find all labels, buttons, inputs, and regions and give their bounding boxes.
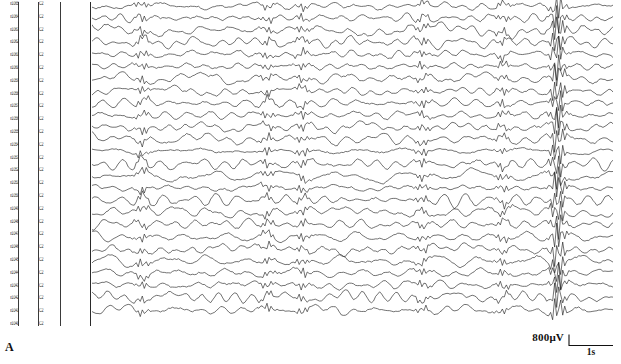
channel-label-right: C2: [39, 181, 63, 186]
eeg-trace-canvas: [92, 0, 613, 326]
channel-label-left: x1045: [10, 257, 36, 262]
channel-label-right: C2: [39, 142, 63, 147]
channel-label-left: x1062: [10, 40, 36, 45]
channel-label-left: x1059: [10, 78, 36, 83]
eeg-trace: [92, 275, 613, 293]
eeg-trace: [92, 82, 613, 101]
channel-label-left: x1053: [10, 155, 36, 160]
channel-label-left: x1064: [10, 14, 36, 19]
channel-label-right: C2: [39, 321, 63, 326]
channel-label-left: x1056: [10, 117, 36, 122]
channel-label-right: C2: [39, 155, 63, 160]
channel-label-right: C2: [39, 53, 63, 58]
channel-label-left: x1065: [10, 2, 36, 7]
eeg-trace: [92, 201, 613, 221]
eeg-trace: [92, 33, 613, 51]
eeg-trace: [92, 299, 613, 320]
eeg-trace: [92, 191, 613, 209]
eeg-trace: [92, 241, 613, 267]
channel-label-right: C2: [39, 270, 63, 275]
eeg-trace: [92, 109, 613, 135]
channel-label-right: C2: [39, 40, 63, 45]
scale-bar: 800μV 1s: [492, 330, 617, 360]
channel-label-right: C2: [39, 129, 63, 134]
channel-label-right: C2: [39, 78, 63, 83]
channel-label-column-left: x1065x1064x1063x1062x1061x1060x1059x1058…: [10, 2, 36, 326]
channel-label-left: x1048: [10, 219, 36, 224]
eeg-trace: [92, 262, 613, 289]
channel-label-left: x1040: [10, 321, 36, 326]
gutter-rule-outer-left: [18, 2, 19, 326]
time-scale-label: 1s: [568, 347, 614, 357]
channel-label-left: x1043: [10, 283, 36, 288]
channel-label-right: C2: [39, 193, 63, 198]
channel-label-right: C2: [39, 104, 63, 109]
channel-label-left: x1057: [10, 104, 36, 109]
channel-label-column-right: C2C2C2C2C2C2C2C2C2C2C2C2C2C2C2C2C2C2C2C2…: [39, 2, 63, 326]
channel-label-left: x1060: [10, 65, 36, 70]
eeg-trace: [92, 6, 613, 34]
eeg-trace: [92, 255, 613, 275]
eeg-trace: [92, 0, 613, 18]
channel-label-left: x1055: [10, 129, 36, 134]
channel-label-right: C2: [39, 283, 63, 288]
eeg-trace: [92, 215, 613, 240]
channel-label-right: C2: [39, 309, 63, 314]
channel-label-right: C2: [39, 2, 63, 7]
channel-label-right: C2: [39, 232, 63, 237]
eeg-trace: [92, 36, 613, 63]
eeg-trace: [92, 64, 613, 86]
eeg-trace: [92, 155, 613, 177]
channel-label-right: C2: [39, 65, 63, 70]
eeg-trace: [92, 91, 613, 111]
gutter-rule-inner-left: [38, 2, 39, 326]
channel-label-right: C2: [39, 27, 63, 32]
channel-label-left: x1058: [10, 91, 36, 96]
gutter-rule-trace-axis: [90, 2, 91, 326]
channel-label-right: C2: [39, 168, 63, 173]
eeg-figure-panel: x1065x1064x1063x1062x1061x1060x1059x1058…: [0, 0, 621, 364]
channel-label-left: x1051: [10, 181, 36, 186]
channel-label-left: x1052: [10, 168, 36, 173]
eeg-trace: [92, 129, 613, 152]
channel-label-right: C2: [39, 117, 63, 122]
channel-label-left: x1044: [10, 270, 36, 275]
eeg-trace: [92, 172, 613, 197]
channel-label-right: C2: [39, 91, 63, 96]
channel-label-right: C2: [39, 206, 63, 211]
amplitude-scale-label: 800μV: [492, 331, 564, 343]
gutter-rule-inner-right: [60, 2, 61, 326]
channel-label-left: x1047: [10, 232, 36, 237]
channel-label-left: x1061: [10, 53, 36, 58]
channel-label-left: x1054: [10, 142, 36, 147]
channel-label-left: x1049: [10, 206, 36, 211]
channel-label-right: C2: [39, 219, 63, 224]
channel-label-right: C2: [39, 257, 63, 262]
channel-label-right: C2: [39, 296, 63, 301]
channel-label-right: C2: [39, 245, 63, 250]
eeg-trace-area: [92, 0, 613, 326]
eeg-trace: [92, 145, 613, 164]
channel-label-left: x1050: [10, 193, 36, 198]
scale-bar-glyph: [568, 334, 614, 348]
channel-label-left: x1063: [10, 27, 36, 32]
panel-letter: A: [5, 340, 14, 355]
channel-label-right: C2: [39, 14, 63, 19]
eeg-trace: [92, 55, 613, 81]
channel-label-left: x1041: [10, 309, 36, 314]
eeg-trace: [92, 105, 613, 128]
channel-label-left: x1046: [10, 245, 36, 250]
channel-label-gutter: x1065x1064x1063x1062x1061x1060x1059x1058…: [10, 2, 90, 326]
channel-label-left: x1042: [10, 296, 36, 301]
